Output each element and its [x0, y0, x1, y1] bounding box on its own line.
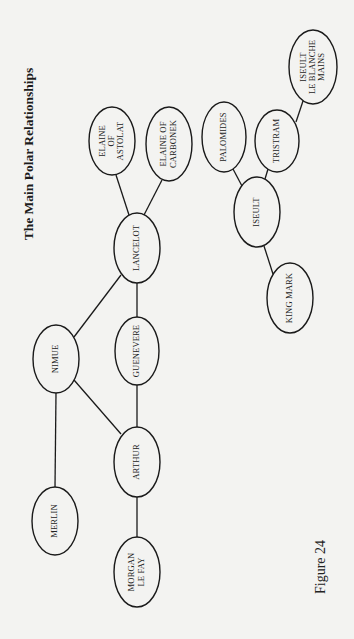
node-label-line: TRISTRAM — [271, 119, 281, 164]
node-elaine-of-astolat: ELAINEOFASTOLAT — [89, 107, 135, 175]
figure-caption: Figure 24 — [313, 540, 328, 594]
node-nimue: NIMUE — [33, 325, 79, 393]
node-label-line: LANCELOT — [131, 224, 141, 271]
node-label: GUENEVERE — [131, 325, 141, 377]
node-king-mark: KING MARK — [267, 263, 313, 333]
node-label-line: ARTHUR — [131, 444, 141, 480]
node-label: LANCELOT — [131, 224, 141, 271]
node-label: ELAINE OFCARBONEK — [158, 119, 177, 168]
node-label: ISEULT — [251, 197, 261, 227]
node-label-line: ASTOLAT — [115, 121, 125, 160]
relationship-diagram: The Main Polar Relationships MERLINNIMUE… — [0, 0, 354, 639]
node-label: PALOMIDES — [218, 112, 228, 161]
node-label-line: NIMUE — [50, 345, 60, 374]
node-iseult-le-blanche-mains: ISEULTLE BLANCHEMAINS — [289, 30, 337, 104]
node-palomides: PALOMIDES — [202, 102, 246, 172]
node-label-line: GUENEVERE — [131, 325, 141, 377]
node-label: MERLIN — [49, 504, 59, 538]
node-label: ARTHUR — [131, 444, 141, 480]
node-merlin: MERLIN — [32, 487, 78, 555]
node-lancelot: LANCELOT — [114, 213, 160, 283]
node-guenevere: GUENEVERE — [115, 317, 159, 385]
node-label: MORGANLE FAY — [126, 552, 145, 591]
node-label: KING MARK — [284, 272, 294, 323]
node-tristram: TRISTRAM — [255, 110, 299, 172]
node-label-line: ISEULT — [251, 197, 261, 227]
node-label-line: KING MARK — [284, 272, 294, 323]
node-elaine-of-carbonek: ELAINE OFCARBONEK — [146, 107, 192, 181]
node-label-line: PALOMIDES — [218, 112, 228, 161]
node-iseult: ISEULT — [234, 177, 280, 247]
figure-title: The Main Polar Relationships — [21, 68, 36, 241]
node-arthur: ARTHUR — [114, 427, 160, 497]
node-label-line: MAINS — [316, 53, 326, 81]
node-label: TRISTRAM — [271, 119, 281, 164]
node-label-line: CARBONEK — [168, 119, 178, 168]
node-label-line: LE FAY — [136, 557, 146, 586]
node-label-line: MERLIN — [49, 504, 59, 538]
node-label: NIMUE — [50, 345, 60, 374]
node-morgan-le-fay: MORGANLE FAY — [114, 537, 160, 607]
